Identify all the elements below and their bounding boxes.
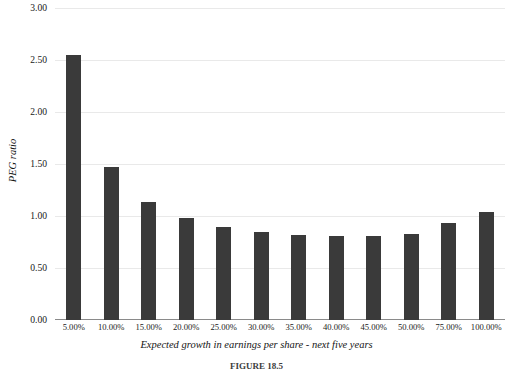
bar [291, 235, 306, 320]
x-axis-tick-label: 100.00% [456, 322, 513, 333]
bar [366, 236, 381, 320]
y-axis-tick-label: 0.50 [3, 263, 47, 273]
y-axis-title: PEG ratio [7, 121, 18, 201]
y-axis-tick-label: 2.50 [3, 55, 47, 65]
bar [66, 55, 81, 320]
bar [441, 223, 456, 320]
bar [104, 167, 119, 320]
gridline [55, 268, 505, 269]
plot-area [55, 8, 505, 320]
gridline [55, 60, 505, 61]
gridline [55, 8, 505, 9]
x-axis-title: Expected growth in earnings per share - … [0, 339, 513, 350]
gridline [55, 164, 505, 165]
bar [329, 236, 344, 320]
bar [141, 202, 156, 320]
gridline [55, 112, 505, 113]
y-axis-tick-label: 0.00 [3, 315, 47, 325]
gridline [55, 216, 505, 217]
x-axis-line [55, 319, 505, 320]
chart-figure: 0.000.501.001.502.002.503.00 5.00%10.00%… [0, 0, 513, 372]
y-axis-tick-label: 3.00 [3, 3, 47, 13]
figure-caption: FIGURE 18.5 [0, 361, 513, 371]
bar [404, 234, 419, 320]
y-axis-tick-label: 2.00 [3, 107, 47, 117]
x-axis-tick-labels: 5.00%10.00%15.00%20.00%25.00%30.00%35.00… [55, 322, 505, 336]
y-axis-tick-label: 1.00 [3, 211, 47, 221]
figure-caption-label: FIGURE 18.5 [230, 361, 283, 371]
bar [179, 218, 194, 320]
bar [216, 227, 231, 320]
bar [254, 232, 269, 320]
bar [479, 212, 494, 320]
